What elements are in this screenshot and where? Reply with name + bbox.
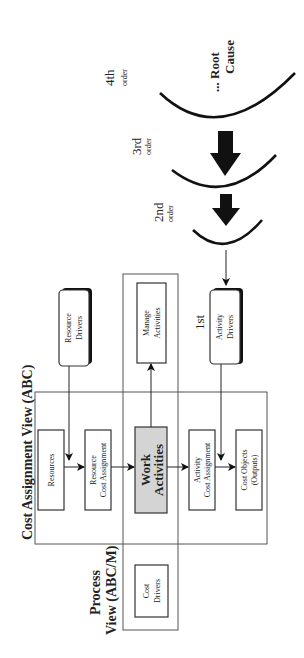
svg-text:(Outputs): (Outputs): [250, 454, 259, 485]
order-3rd-sublabel: order: [144, 138, 153, 155]
svg-text:Activity: Activity: [193, 457, 202, 483]
thick-arrow-3rd-to-2nd: [212, 194, 240, 226]
svg-text:Resource: Resource: [89, 455, 98, 485]
order-3rd-label: 3rd: [129, 137, 144, 155]
rotated-diagram: Cost Assignment View (ABC) Process View …: [0, 0, 304, 658]
activity-drivers-box: Activity Drivers: [210, 288, 243, 364]
svg-text:Cost Assignment: Cost Assignment: [203, 442, 212, 497]
resources-box: Resources: [38, 430, 64, 510]
svg-text:Drivers: Drivers: [75, 316, 84, 340]
order-2nd-label: 2nd: [151, 202, 166, 222]
process-view-title-line1: Process: [88, 570, 103, 615]
resource-drivers-box: Resource Drivers: [59, 288, 92, 366]
svg-text:Cost: Cost: [142, 583, 151, 598]
arc-4th-order: [160, 73, 295, 117]
svg-text:Resources: Resources: [47, 454, 56, 487]
root-cause-line2: Cause: [222, 40, 237, 74]
cost-assignment-view-title: Cost Assignment View (ABC): [20, 364, 36, 540]
order-4th-sublabel: order: [120, 69, 129, 86]
process-view-title-line2: View (ABC/M): [104, 545, 120, 635]
svg-text:Manage: Manage: [142, 310, 151, 336]
svg-text:Drivers: Drivers: [153, 579, 162, 603]
order-4th-label: 4th: [102, 69, 117, 86]
cost-objects-box: Cost Objects (Outputs): [236, 430, 262, 510]
thick-arrow-4th-to-3rd: [210, 131, 241, 176]
svg-text:Activities: Activities: [151, 444, 166, 496]
svg-text:Activity: Activity: [215, 314, 224, 340]
order-1st-label: 1st: [192, 314, 207, 330]
activity-cost-assignment-box: Activity Cost Assignment: [189, 430, 215, 510]
cost-drivers-box: Cost Drivers: [135, 565, 168, 617]
resource-cost-assignment-box: Resource Cost Assignment: [85, 430, 111, 510]
svg-text:Activities: Activities: [153, 307, 162, 338]
svg-text:Resource: Resource: [64, 313, 73, 343]
manage-activities-box: Manage Activities: [137, 283, 166, 363]
svg-text:Drivers: Drivers: [226, 315, 235, 339]
svg-text:Cost Assignment: Cost Assignment: [99, 442, 108, 497]
svg-text:Cost Objects: Cost Objects: [240, 449, 249, 490]
work-activities-box: Work Activities: [135, 427, 167, 513]
root-cause-line1: ... Root: [207, 52, 222, 92]
order-2nd-sublabel: order: [166, 205, 175, 222]
